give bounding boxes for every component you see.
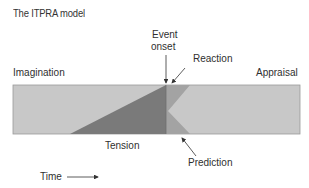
prediction-arrow: [182, 138, 196, 156]
prediction-label: Prediction: [188, 157, 232, 169]
event-onset-label-line2: onset: [151, 41, 175, 53]
appraisal-label: Appraisal: [256, 67, 298, 79]
reaction-label: Reaction: [193, 53, 232, 65]
event-onset-label-line1: Event: [152, 29, 178, 41]
tension-label: Tension: [105, 140, 139, 152]
reaction-arrow: [172, 68, 185, 83]
time-label: Time: [40, 171, 62, 183]
imagination-label: Imagination: [13, 67, 65, 79]
